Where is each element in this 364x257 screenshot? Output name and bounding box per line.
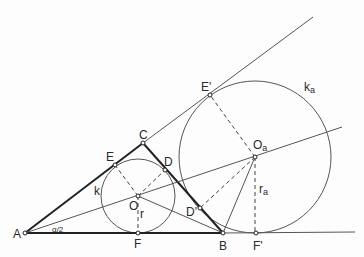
label-oa: Oa [253, 138, 267, 153]
point-f1 [254, 231, 258, 235]
radius-oe [115, 165, 138, 196]
label-e: E [106, 150, 114, 164]
label-c: C [139, 128, 148, 142]
radius-oa-d1 [200, 157, 255, 208]
label-d: D [164, 155, 173, 169]
label-half-alpha: α/2 [52, 225, 64, 234]
point-d1 [198, 206, 202, 210]
label-b: B [219, 239, 227, 253]
point-b [221, 231, 225, 235]
label-r: r [140, 207, 144, 221]
tangent-line-upper [143, 17, 313, 143]
point-f [136, 231, 140, 235]
point-o [136, 194, 140, 198]
point-oa [253, 155, 257, 159]
label-d1: D' [186, 205, 197, 219]
label-ka: ka [304, 80, 315, 95]
radius-od [138, 170, 165, 196]
diagram-svg: A B C E D O F k r α/2 E' D' F' Oa ra ka [0, 0, 364, 257]
label-o: O [129, 199, 138, 213]
line-b-oa [223, 157, 255, 233]
label-f1: F' [253, 239, 263, 253]
point-a [23, 231, 27, 235]
label-e1: E' [201, 80, 211, 94]
label-f: F [134, 237, 141, 251]
angle-bisector-a [25, 127, 342, 233]
label-a: A [13, 227, 21, 241]
label-k: k [94, 184, 101, 198]
label-ra: ra [259, 182, 268, 197]
side-ac [25, 143, 143, 233]
line-o-b [138, 196, 223, 233]
side-cb [143, 143, 223, 233]
geometry-diagram: A B C E D O F k r α/2 E' D' F' Oa ra ka [0, 0, 364, 257]
radius-oa-e1 [210, 95, 255, 157]
